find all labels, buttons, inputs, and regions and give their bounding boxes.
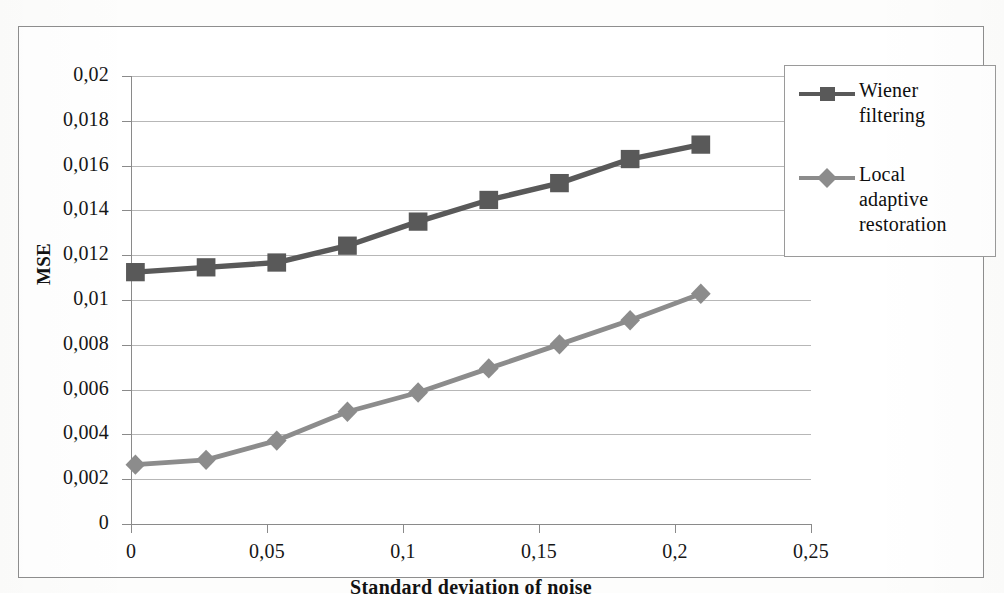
x-tick-label: 0,1	[390, 540, 416, 563]
y-tick-label: 0,008	[19, 332, 109, 355]
x-tick-mark	[811, 524, 812, 533]
gridline-y	[131, 390, 811, 391]
gridline-y	[131, 434, 811, 435]
data-point-diamond	[620, 310, 640, 330]
data-point-square	[338, 237, 357, 255]
data-point-square	[197, 258, 216, 276]
x-tick-label: 0	[126, 540, 136, 563]
legend-marker-diamond-icon	[797, 164, 859, 190]
legend-item-local-adaptive-restoration[interactable]: Local adaptive restoration	[797, 162, 947, 237]
x-tick-mark	[131, 524, 132, 533]
gridline-y	[131, 300, 811, 301]
y-tick-mark	[122, 255, 131, 256]
series-local-adaptive-restoration	[126, 284, 711, 475]
data-point-diamond	[408, 382, 428, 402]
y-tick-label: 0	[19, 511, 109, 534]
gridline-y	[131, 255, 811, 256]
legend-label-local-adaptive-restoration: Local adaptive restoration	[859, 162, 947, 237]
y-tick-label: 0,01	[19, 287, 109, 310]
y-tick-label: 0,016	[19, 153, 109, 176]
y-tick-mark	[122, 210, 131, 211]
gridline-y	[131, 479, 811, 480]
legend-label-wiener-filtering: Wiener filtering	[859, 78, 925, 128]
x-tick-label: 0,15	[521, 540, 557, 563]
gridline-y	[131, 210, 811, 211]
series-wiener-filtering	[126, 135, 710, 281]
gridline-y	[131, 121, 811, 122]
series-line	[135, 145, 700, 273]
data-point-diamond	[338, 402, 358, 422]
y-tick-mark	[122, 479, 131, 480]
y-tick-label: 0,02	[19, 63, 109, 86]
x-tick-mark	[675, 524, 676, 533]
data-point-diamond	[479, 358, 499, 378]
y-tick-label: 0,004	[19, 421, 109, 444]
y-tick-mark	[122, 166, 131, 167]
data-point-square	[409, 212, 428, 230]
y-tick-label: 0,018	[19, 108, 109, 131]
data-point-square	[550, 174, 569, 192]
y-axis-title: MSE	[33, 243, 55, 285]
series-line	[135, 294, 700, 465]
x-axis-title: Standard deviation of noise	[131, 576, 811, 598]
data-point-square	[126, 263, 145, 281]
x-tick-label: 0,2	[662, 540, 688, 563]
y-tick-label: 0,006	[19, 377, 109, 400]
y-axis-line	[131, 76, 132, 524]
chart-frame: 00,0020,0040,0060,0080,010,0120,0140,016…	[18, 26, 984, 578]
gridline-y	[131, 345, 811, 346]
data-point-diamond	[126, 454, 146, 474]
x-tick-mark	[267, 524, 268, 533]
y-tick-mark	[122, 390, 131, 391]
y-tick-mark	[122, 300, 131, 301]
chart-legend: Wiener filtering Local adaptive restorat…	[784, 65, 996, 257]
x-tick-mark	[539, 524, 540, 533]
gridline-y	[131, 76, 811, 77]
gridline-y	[131, 166, 811, 167]
legend-marker-square-icon	[797, 80, 859, 106]
x-tick-label: 0,25	[793, 540, 829, 563]
y-tick-mark	[122, 121, 131, 122]
y-tick-label: 0,002	[19, 466, 109, 489]
y-tick-mark	[122, 434, 131, 435]
y-tick-mark	[122, 524, 131, 525]
x-tick-mark	[403, 524, 404, 533]
data-point-square	[479, 191, 498, 209]
data-point-diamond	[196, 450, 216, 470]
y-tick-mark	[122, 345, 131, 346]
legend-item-wiener-filtering[interactable]: Wiener filtering	[797, 78, 925, 128]
y-tick-mark	[122, 76, 131, 77]
x-tick-label: 0,05	[249, 540, 285, 563]
x-axis-line	[131, 524, 811, 525]
data-point-square	[691, 135, 710, 153]
y-tick-label: 0,014	[19, 197, 109, 220]
